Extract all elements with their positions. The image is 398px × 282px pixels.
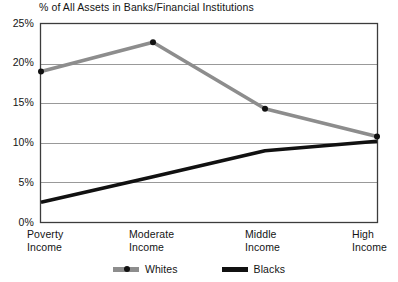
legend-item-whites: Whites: [113, 263, 178, 275]
x-tick-label-moderate: Moderate Income: [129, 228, 174, 254]
legend-label-blacks: Blacks: [254, 263, 286, 275]
x-tick-label-middle-line2: Income: [245, 241, 280, 254]
x-tick-label-high-line1: High: [352, 228, 387, 241]
x-tick-label-poverty-line2: Income: [27, 241, 63, 254]
x-tick-label-high-line2: Income: [352, 241, 387, 254]
x-tick-label-middle: Middle Income: [245, 228, 280, 254]
data-point-whites-2: [262, 106, 268, 112]
chart-figure: % of All Assets in Banks/Financial Insti…: [0, 0, 398, 282]
x-tick-label-poverty-line1: Poverty: [27, 228, 63, 241]
legend-item-blacks: Blacks: [222, 263, 286, 275]
legend-swatch-whites: [113, 267, 139, 272]
x-tick-label-moderate-line1: Moderate: [129, 228, 174, 241]
series-layer: [38, 39, 380, 202]
series-line-whites: [41, 42, 377, 136]
legend-swatch-blacks: [222, 267, 248, 272]
data-point-whites-1: [150, 39, 156, 45]
series-line-blacks: [41, 141, 377, 202]
data-point-whites-0: [38, 69, 44, 75]
legend-label-whites: Whites: [145, 263, 178, 275]
x-tick-label-high: High Income: [352, 228, 387, 254]
data-point-whites-3: [374, 133, 380, 139]
x-tick-label-moderate-line2: Income: [129, 241, 174, 254]
x-tick-label-poverty: Poverty Income: [27, 228, 63, 254]
chart-legend: Whites Blacks: [0, 263, 398, 275]
x-tick-label-middle-line1: Middle: [245, 228, 280, 241]
